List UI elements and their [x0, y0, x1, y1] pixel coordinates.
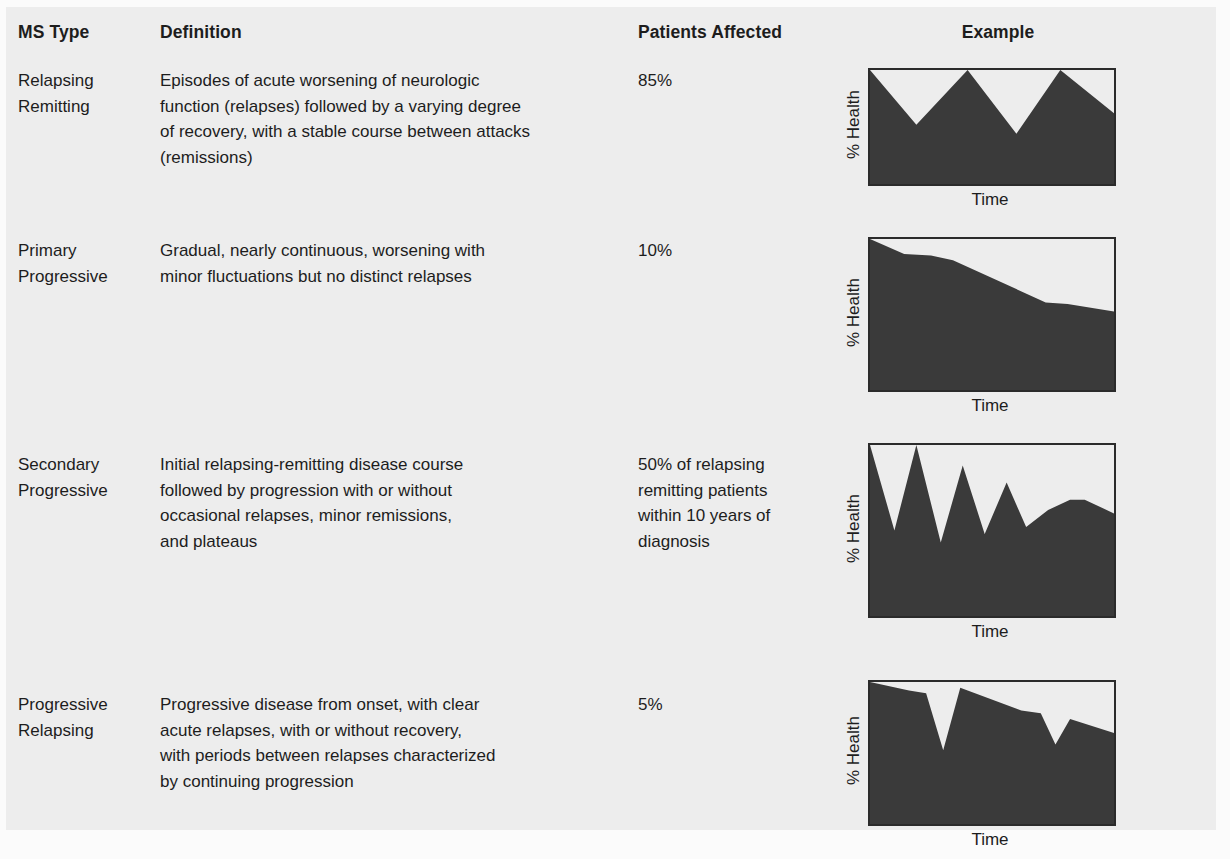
- cell-example-chart: % HealthTime: [848, 68, 1148, 214]
- patients-affected-line: 10%: [638, 238, 843, 264]
- definition-line: and plateaus: [160, 529, 630, 555]
- definition-line: minor fluctuations but no distinct relap…: [160, 264, 630, 290]
- chart-y-axis-label: % Health: [844, 443, 866, 614]
- definition-line: (remissions): [160, 145, 630, 171]
- cell-example-chart: % HealthTime: [848, 237, 1148, 420]
- cell-patients-affected: 10%: [638, 238, 843, 264]
- cell-example-chart: % HealthTime: [848, 680, 1148, 854]
- definition-line: occasional relapses, minor remissions,: [160, 503, 630, 529]
- ms-type-line: Remitting: [18, 94, 158, 120]
- cell-definition: Episodes of acute worsening of neurologi…: [160, 68, 630, 170]
- chart-plot-area: [868, 680, 1116, 826]
- ms-type-line: Progressive: [18, 692, 158, 718]
- chart-x-axis-label: Time: [868, 190, 1112, 210]
- definition-line: acute relapses, with or without recovery…: [160, 718, 630, 744]
- definition-line: followed by progression with or without: [160, 478, 630, 504]
- chart-area-series: [870, 682, 1114, 824]
- chart-area-series: [870, 445, 1114, 616]
- ms-type-line: Secondary: [18, 452, 158, 478]
- health-trajectory-area: [870, 445, 1114, 616]
- chart-area-series: [870, 239, 1114, 390]
- chart-area-series: [870, 70, 1114, 184]
- chart-x-axis-label: Time: [868, 622, 1112, 642]
- definition-line: function (relapses) followed by a varyin…: [160, 94, 630, 120]
- health-trajectory-area: [870, 682, 1114, 824]
- definition-line: Episodes of acute worsening of neurologi…: [160, 68, 630, 94]
- chart-1: % HealthTime: [848, 68, 1148, 214]
- chart-plot-area: [868, 443, 1116, 618]
- cell-example-chart: % HealthTime: [848, 443, 1148, 646]
- patients-affected-line: 5%: [638, 692, 843, 718]
- health-trajectory-area: [870, 70, 1114, 184]
- cell-definition: Gradual, nearly continuous, worsening wi…: [160, 238, 630, 289]
- chart-2: % HealthTime: [848, 237, 1148, 420]
- ms-type-line: Relapsing: [18, 718, 158, 744]
- chart-plot-area: [868, 237, 1116, 392]
- patients-affected-line: 50% of relapsing: [638, 452, 843, 478]
- definition-line: with periods between relapses characteri…: [160, 743, 630, 769]
- definition-line: Initial relapsing-remitting disease cour…: [160, 452, 630, 478]
- cell-ms-type: ProgressiveRelapsing: [18, 692, 158, 743]
- definition-line: Progressive disease from onset, with cle…: [160, 692, 630, 718]
- chart-x-axis-label: Time: [868, 830, 1112, 850]
- ms-type-line: Progressive: [18, 264, 158, 290]
- chart-y-axis-label: % Health: [844, 68, 866, 182]
- column-header-definition: Definition: [160, 22, 625, 43]
- chart-plot-area: [868, 68, 1116, 186]
- cell-ms-type: PrimaryProgressive: [18, 238, 158, 289]
- cell-definition: Progressive disease from onset, with cle…: [160, 692, 630, 794]
- cell-definition: Initial relapsing-remitting disease cour…: [160, 452, 630, 554]
- cell-ms-type: SecondaryProgressive: [18, 452, 158, 503]
- scanned-page: MS Type Definition Patients Affected Exa…: [0, 0, 1230, 859]
- column-header-patients-affected: Patients Affected: [638, 22, 838, 43]
- ms-type-line: Primary: [18, 238, 158, 264]
- patients-affected-line: 85%: [638, 68, 843, 94]
- chart-4: % HealthTime: [848, 680, 1148, 854]
- cell-ms-type: RelapsingRemitting: [18, 68, 158, 119]
- chart-y-axis-label: % Health: [844, 680, 866, 822]
- column-header-ms-type: MS Type: [18, 22, 150, 43]
- health-trajectory-area: [870, 239, 1114, 390]
- cell-patients-affected: 50% of relapsingremitting patientswithin…: [638, 452, 843, 554]
- patients-affected-line: within 10 years of: [638, 503, 843, 529]
- definition-line: by continuing progression: [160, 769, 630, 795]
- patients-affected-line: diagnosis: [638, 529, 843, 555]
- definition-line: of recovery, with a stable course betwee…: [160, 119, 630, 145]
- column-header-example: Example: [848, 22, 1148, 43]
- ms-type-line: Progressive: [18, 478, 158, 504]
- cell-patients-affected: 85%: [638, 68, 843, 94]
- chart-y-axis-label: % Health: [844, 237, 866, 388]
- chart-x-axis-label: Time: [868, 396, 1112, 416]
- chart-3: % HealthTime: [848, 443, 1148, 646]
- ms-types-table: MS Type Definition Patients Affected Exa…: [0, 0, 1230, 859]
- cell-patients-affected: 5%: [638, 692, 843, 718]
- patients-affected-line: remitting patients: [638, 478, 843, 504]
- definition-line: Gradual, nearly continuous, worsening wi…: [160, 238, 630, 264]
- ms-type-line: Relapsing: [18, 68, 158, 94]
